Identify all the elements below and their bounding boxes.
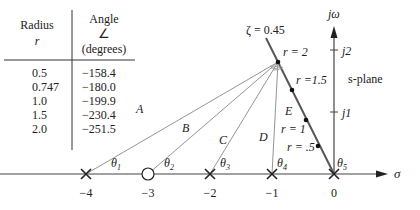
label-E: E	[284, 104, 293, 118]
theta-4: θ4	[277, 156, 287, 172]
imag-axis-arrow-icon	[331, 26, 338, 38]
tick-minus3: −3	[142, 186, 155, 200]
row-1-angle: −180.0	[82, 80, 116, 94]
theta-1: θ1	[111, 156, 121, 172]
tick-j1: j1	[340, 106, 351, 120]
row-0-r: 0.5	[32, 66, 47, 80]
theta-2: θ2	[164, 156, 174, 172]
label-r2: r = 2	[283, 45, 308, 59]
tick-0: 0	[331, 186, 337, 200]
tick-minus1: −1	[266, 186, 279, 200]
label-r1: r = 1	[281, 122, 306, 136]
angle-table: Radius r Angle ∠ (degrees) 0.5 −158.4 0.…	[4, 10, 135, 150]
row-4-angle: −251.5	[82, 122, 116, 136]
header-angle-symbol: ∠	[98, 26, 110, 41]
label-r0-5: r = .5	[287, 140, 315, 154]
label-r1-5: r =1.5	[296, 73, 327, 87]
header-angle-unit: (degrees)	[82, 42, 127, 56]
imaginary-axis: jω j2 j1	[326, 7, 351, 174]
row-2-r: 1.0	[32, 94, 47, 108]
point-r1-5	[290, 88, 295, 93]
tick-j2: j2	[340, 44, 351, 58]
row-1-r: 0.747	[32, 80, 59, 94]
row-3-angle: −230.4	[82, 108, 116, 122]
label-C: C	[219, 133, 228, 147]
label-B: B	[182, 121, 190, 135]
row-0-angle: −158.4	[82, 66, 116, 80]
row-3-r: 1.5	[32, 108, 47, 122]
zeta-label: ζ = 0.45	[246, 23, 285, 37]
point-r0-5	[316, 144, 321, 149]
tick-minus2: −2	[204, 186, 217, 200]
theta-5: θ5	[337, 156, 347, 172]
s-plane-label: s-plane	[348, 72, 383, 86]
label-D: D	[258, 130, 268, 144]
zero-icon	[142, 168, 154, 180]
label-A: A	[135, 102, 144, 116]
root-locus-diagram: Radius r Angle ∠ (degrees) 0.5 −158.4 0.…	[0, 0, 420, 210]
row-2-angle: −199.9	[82, 94, 116, 108]
tick-minus4: −4	[80, 186, 93, 200]
jomega-label: jω	[326, 7, 340, 21]
header-radius: Radius	[20, 18, 54, 32]
point-r2	[276, 60, 281, 65]
row-4-r: 2.0	[32, 122, 47, 136]
header-angle: Angle	[89, 12, 118, 26]
header-radius-symbol: r	[35, 34, 40, 48]
theta-3: θ3	[220, 156, 230, 172]
real-axis-arrow-icon	[376, 171, 388, 178]
sigma-label: σ	[394, 166, 401, 181]
